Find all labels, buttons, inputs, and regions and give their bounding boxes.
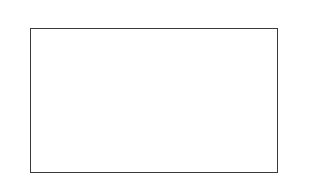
plot-frame [30, 28, 278, 173]
